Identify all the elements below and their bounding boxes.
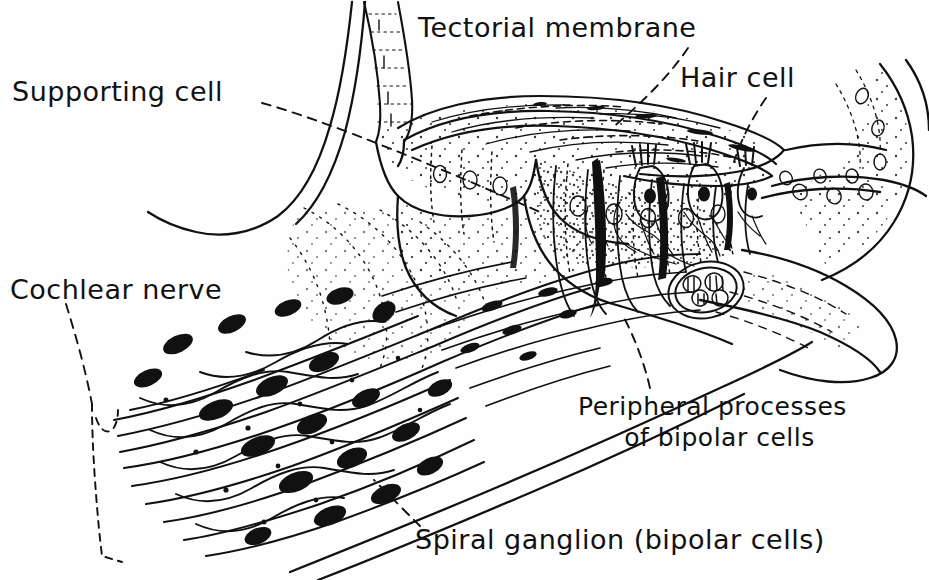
label-peripheral-processes-line2: of bipolar cells [592,423,847,454]
label-tectorial-membrane: Tectorial membrane [418,12,696,45]
leader-cochlear-nerve [66,304,92,404]
label-hair-cell: Hair cell [680,62,795,95]
outer-wall-strip [364,2,412,142]
cochlear-nerve-bracket [92,404,122,562]
spiral-lamina-curve [148,2,365,235]
outer-wall-texture [369,14,411,122]
label-spiral-ganglion: Spiral ganglion (bipolar cells) [415,524,825,557]
figure-canvas: Supporting cell Tectorial membrane Hair … [0,0,929,580]
bone-wall-stipple [792,64,909,266]
label-cochlear-nerve: Cochlear nerve [10,274,222,307]
nerve-cross-section-fascicles [681,272,729,308]
leader-peripheral-processes [622,314,650,388]
label-peripheral-processes: Peripheral processes of bipolar cells [578,392,847,453]
label-supporting-cell: Supporting cell [12,76,223,109]
label-peripheral-processes-line1: Peripheral processes [578,392,847,421]
nerve-cross-section [663,255,749,326]
